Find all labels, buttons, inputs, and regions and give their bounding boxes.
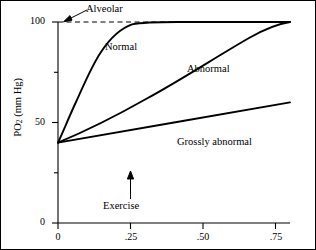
x-tick-label-50: .50 [191, 232, 215, 242]
alveolar-arrow [64, 10, 88, 22]
x-tick-label-0: 0 [48, 232, 68, 242]
x-tick-marks [58, 223, 276, 229]
series-label-normal: Normal [105, 41, 137, 52]
series-label-abnormal: Abnormal [187, 63, 230, 74]
y-tick-label-50: 50 [27, 117, 45, 127]
y-tick-marks [52, 22, 58, 223]
exercise-label: Exercise [103, 200, 139, 211]
series-line-abnormal [58, 22, 290, 143]
figure-panel: PO2 (mm Hg) 0 50 100 0 .25 .50 .75 Norma… [0, 0, 316, 250]
y-axis-title-units: (mm Hg) [12, 78, 23, 119]
series-label-grossly-abnormal: Grossly abnormal [177, 136, 252, 147]
x-tick-label-75: .75 [264, 232, 288, 242]
x-tick-label-25: .25 [119, 232, 143, 242]
series-line-grossly-abnormal [58, 102, 290, 142]
y-axis-title-subscript: 2 [15, 119, 24, 123]
y-tick-label-0: 0 [27, 217, 45, 227]
chart-canvas [1, 1, 316, 250]
alveolar-label: Alveolar [86, 3, 123, 14]
y-axis-title-text: PO [12, 123, 23, 136]
exercise-arrow [127, 171, 133, 199]
y-axis-title: PO2 (mm Hg) [12, 52, 25, 162]
y-tick-label-100: 100 [21, 16, 45, 26]
